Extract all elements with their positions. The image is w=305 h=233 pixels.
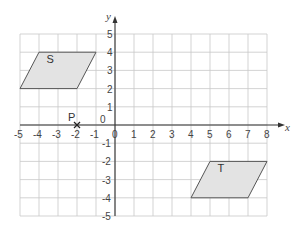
y-tick-label: 3: [107, 65, 113, 76]
x-axis-arrow-icon: [278, 123, 285, 128]
y-tick-label: -3: [102, 175, 111, 186]
x-tick-label: 3: [169, 129, 175, 140]
x-tick-label: -3: [52, 129, 61, 140]
y-tick-label: -1: [102, 138, 111, 149]
shape-label: S: [47, 53, 54, 65]
x-tick-label: 5: [207, 129, 213, 140]
coordinate-grid: ST xy -5-4-3-2-1012345678054321-1-2-3-4-…: [0, 0, 305, 233]
y-tick-label: 2: [107, 84, 113, 95]
origin-label: 0: [100, 114, 106, 125]
shape-s: [20, 52, 96, 88]
x-tick-label: 0: [112, 129, 118, 140]
x-tick-label: 2: [150, 129, 156, 140]
y-tick-label: 4: [107, 47, 113, 58]
point-label: P: [68, 111, 75, 123]
y-tick-label: -4: [102, 193, 111, 204]
y-axis-arrow-icon: [113, 16, 118, 23]
y-tick-label: -2: [102, 156, 111, 167]
x-axis-label: x: [284, 121, 290, 133]
shape-label: T: [218, 162, 225, 174]
x-tick-label: 8: [264, 129, 270, 140]
y-tick-label: 1: [107, 102, 113, 113]
x-tick-label: -2: [71, 129, 80, 140]
y-tick-label: 5: [107, 29, 113, 40]
y-axis-label: y: [105, 10, 111, 22]
x-tick-label: 1: [131, 129, 137, 140]
y-tick-label: -5: [102, 211, 111, 222]
x-tick-label: 7: [245, 129, 251, 140]
x-tick-label: 6: [226, 129, 232, 140]
x-tick-label: 4: [188, 129, 194, 140]
x-tick-label: -4: [33, 129, 42, 140]
x-tick-label: -5: [14, 129, 23, 140]
x-tick-label: -1: [90, 129, 99, 140]
shape-t: [191, 161, 267, 197]
